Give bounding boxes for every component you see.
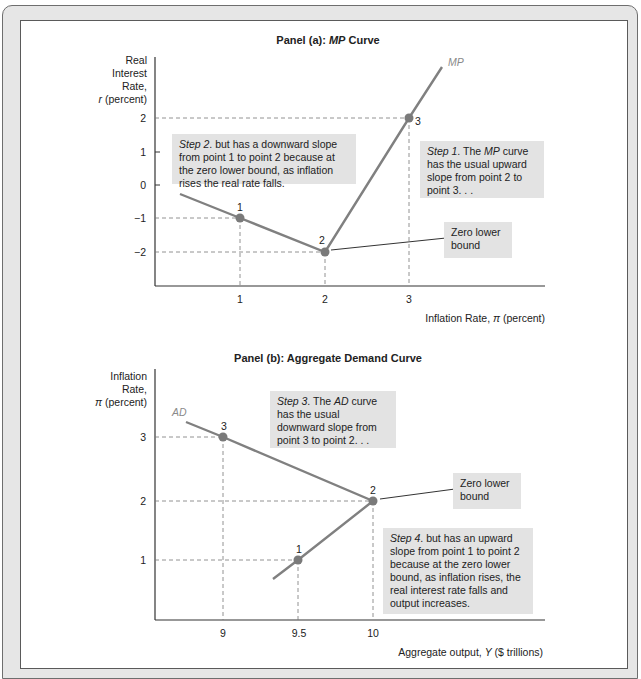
svg-text:Interest: Interest — [112, 67, 147, 79]
panel-a-x-label: Inflation Rate, π (percent) — [425, 312, 545, 324]
step1-note: Step 1. The MP curve has the usual upwar… — [420, 141, 544, 198]
svg-text:−2: −2 — [134, 246, 146, 258]
panel-b-zlb-leader — [380, 489, 455, 499]
svg-text:2: 2 — [319, 234, 325, 246]
point-1 — [236, 214, 245, 223]
point-3 — [405, 114, 414, 123]
svg-text:9.5: 9.5 — [292, 627, 307, 639]
svg-text:3: 3 — [221, 420, 227, 432]
panel-b-x-ticks: 9 9.5 10 — [220, 627, 379, 639]
svg-text:−1: −1 — [134, 212, 146, 224]
panel-a-y-label: Real Interest Rate, r (percent) — [99, 54, 148, 105]
svg-text:1: 1 — [140, 554, 146, 566]
panel-b-zlb-note: Zero lower bound — [453, 473, 521, 509]
step3-note: Step 3. The AD curve has the usual downw… — [270, 391, 396, 448]
svg-text:10: 10 — [367, 627, 379, 639]
svg-text:2: 2 — [322, 293, 328, 305]
svg-text:1: 1 — [237, 201, 243, 213]
svg-text:Real: Real — [125, 54, 147, 66]
panel-b-guides — [155, 437, 373, 620]
svg-text:π (percent): π (percent) — [95, 396, 147, 408]
svg-text:Inflation: Inflation — [110, 370, 147, 382]
svg-text:0: 0 — [140, 179, 146, 191]
figure-svg: Panel (a): MP Curve Real Interest Rate, … — [0, 0, 641, 679]
svg-text:1: 1 — [140, 146, 146, 158]
svg-text:1: 1 — [296, 543, 302, 555]
panel-a-title: Panel (a): MP Curve — [276, 34, 379, 46]
step4-note: Step 4. but has an upward slope from poi… — [383, 528, 533, 614]
step2-note: Step 2. but has a downward slope from po… — [172, 134, 356, 184]
svg-text:1: 1 — [237, 293, 243, 305]
svg-text:2: 2 — [140, 495, 146, 507]
svg-text:3: 3 — [406, 293, 412, 305]
svg-text:r (percent): r (percent) — [99, 93, 147, 105]
mp-curve-label: MP — [448, 56, 464, 68]
panel-a-x-ticks: 1 2 3 — [237, 293, 412, 305]
svg-text:Rate,: Rate, — [122, 383, 147, 395]
point-3 — [219, 433, 228, 442]
point-2 — [369, 497, 378, 506]
point-1 — [294, 556, 303, 565]
panel-b-y-ticks: 3 2 1 — [140, 431, 146, 566]
svg-text:2: 2 — [140, 112, 146, 124]
svg-text:2: 2 — [370, 484, 376, 496]
svg-text:3: 3 — [140, 431, 146, 443]
panel-b-title: Panel (b): Aggregate Demand Curve — [234, 352, 422, 364]
panel-b-y-label: Inflation Rate, π (percent) — [95, 370, 147, 408]
svg-text:9: 9 — [220, 627, 226, 639]
panel-b-x-label: Aggregate output, Y ($ trillions) — [398, 646, 543, 658]
panel-a-zlb-leader — [331, 238, 446, 250]
svg-text:Rate,: Rate, — [122, 80, 147, 92]
ad-curve-label: AD — [171, 406, 187, 418]
point-2 — [321, 248, 330, 257]
panel-a-zlb-note: Zero lower bound — [444, 222, 512, 258]
svg-text:3: 3 — [415, 115, 421, 127]
panel-a-y-ticks: 2 1 0 −1 −2 — [134, 112, 160, 258]
